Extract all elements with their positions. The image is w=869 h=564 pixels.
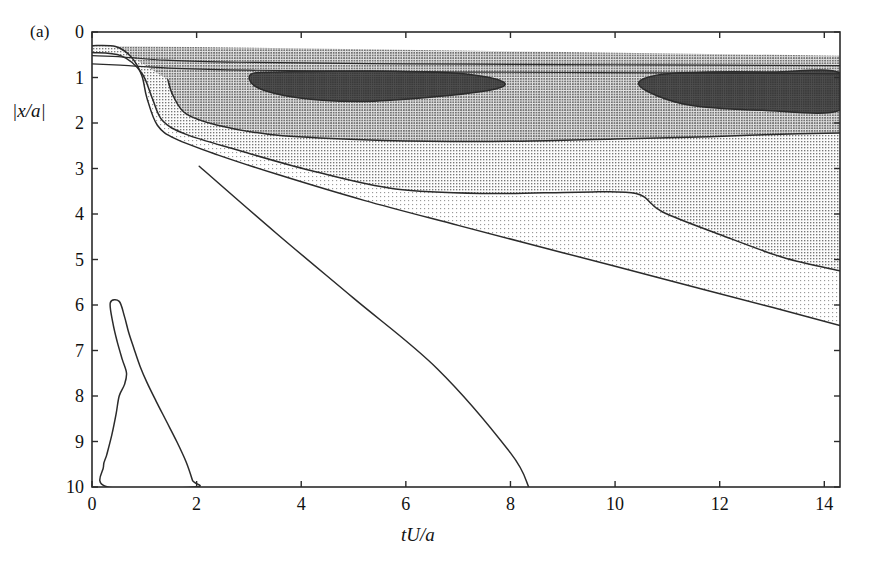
x-tick-label: 8 xyxy=(488,494,532,515)
y-tick-label: 5 xyxy=(46,249,84,270)
y-tick-label: 4 xyxy=(46,204,84,225)
y-axis-tick-labels: 012345678910 xyxy=(38,0,84,564)
x-axis-label-text: tU/a xyxy=(401,524,435,545)
plot-canvas xyxy=(0,0,869,564)
y-tick-label: 1 xyxy=(46,67,84,88)
y-tick-label: 0 xyxy=(46,22,84,43)
y-tick-label: 3 xyxy=(46,158,84,179)
y-tick-label: 8 xyxy=(46,386,84,407)
x-tick-label: 0 xyxy=(70,494,114,515)
y-tick-label: 7 xyxy=(46,340,84,361)
contour-bands xyxy=(92,32,849,489)
y-tick-label: 2 xyxy=(46,113,84,134)
y-tick-label: 9 xyxy=(46,431,84,452)
x-axis-tick-labels: 02468101214 xyxy=(0,494,869,524)
x-tick-label: 12 xyxy=(698,494,742,515)
x-tick-label: 6 xyxy=(384,494,428,515)
x-tick-label: 10 xyxy=(593,494,637,515)
x-tick-label: 2 xyxy=(175,494,219,515)
contour-figure: (a) |x/a| tU/a 012345678910 02468101214 xyxy=(0,0,869,564)
y-tick-label: 6 xyxy=(46,295,84,316)
x-axis-label: tU/a xyxy=(401,524,435,546)
x-tick-label: 14 xyxy=(802,494,846,515)
x-tick-label: 4 xyxy=(279,494,323,515)
